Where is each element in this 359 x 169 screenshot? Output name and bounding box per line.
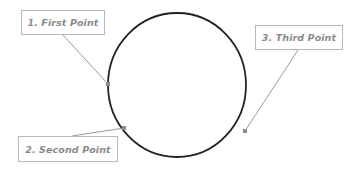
circle-outline	[108, 13, 246, 157]
label-third-point: 3. Third Point	[255, 25, 343, 50]
point-marker-first	[106, 82, 110, 86]
leader-line-first-point	[63, 35, 108, 84]
point-marker-second	[122, 126, 126, 130]
leader-line-third-point	[245, 50, 298, 131]
label-second-point: 2. Second Point	[18, 136, 118, 162]
label-first-point: 1. First Point	[21, 10, 105, 35]
point-marker-third	[243, 129, 247, 133]
leader-line-second-point	[72, 128, 124, 136]
